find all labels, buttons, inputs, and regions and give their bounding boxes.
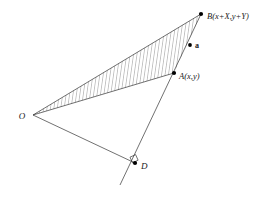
segment-o-to-d: [33, 115, 135, 163]
label-origin: O: [19, 111, 26, 121]
vertex-dot-b: [199, 12, 203, 16]
label-point-b: B(x+X,y+Y): [207, 11, 249, 21]
vector-diagram-canvas: O A(x,y) B(x+X,y+Y) a D: [0, 0, 265, 197]
label-point-d: D: [140, 161, 148, 171]
vertex-dot-d: [133, 161, 137, 165]
geometry-diagram: O A(x,y) B(x+X,y+Y) a D: [0, 0, 265, 197]
vertex-dot-a: [172, 71, 176, 75]
label-point-a: A(x,y): [178, 71, 200, 81]
label-vector-a: a: [195, 41, 199, 50]
vector-marker-dot: [188, 43, 192, 47]
